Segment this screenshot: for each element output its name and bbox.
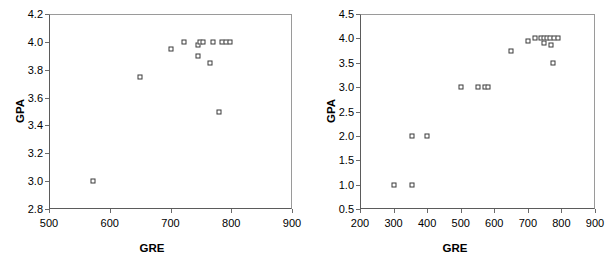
y-tick-label: 3.5 xyxy=(339,57,354,68)
y-tick-label: 4.5 xyxy=(339,9,354,20)
x-tick-label: 600 xyxy=(101,218,119,229)
plot-area-left xyxy=(49,14,292,209)
y-tick-mark xyxy=(45,98,49,99)
x-tick-mark xyxy=(561,209,562,213)
y-tick-label: 3.6 xyxy=(28,92,43,103)
data-point-marker xyxy=(556,36,561,41)
x-axis-title-right: GRE xyxy=(303,242,607,254)
x-tick-label: 400 xyxy=(418,218,436,229)
chart-left-gre-gpa: 2.83.03.23.43.63.84.04.2 500600700800900… xyxy=(0,0,304,259)
data-point-marker xyxy=(195,53,200,58)
chart-right-gre-gpa: 0.51.01.52.02.53.03.54.04.5 200300400500… xyxy=(303,0,607,259)
x-tick-label: 200 xyxy=(351,218,369,229)
data-point-marker xyxy=(410,133,415,138)
x-tick-mark xyxy=(231,209,232,213)
data-point-marker xyxy=(486,85,491,90)
data-point-marker xyxy=(509,48,514,53)
data-point-marker xyxy=(200,39,205,44)
x-tick-label: 800 xyxy=(222,218,240,229)
data-point-marker xyxy=(228,39,233,44)
x-tick-mark xyxy=(360,209,361,213)
y-tick-label: 4.0 xyxy=(339,33,354,44)
x-tick-label: 500 xyxy=(40,218,58,229)
y-tick-mark xyxy=(356,63,360,64)
y-tick-label: 3.4 xyxy=(28,120,43,131)
y-tick-label: 2.5 xyxy=(339,106,354,117)
data-point-marker xyxy=(541,41,546,46)
y-tick-label: 3.2 xyxy=(28,148,43,159)
x-tick-label: 700 xyxy=(519,218,537,229)
y-tick-label: 2.8 xyxy=(28,204,43,215)
data-point-marker xyxy=(475,85,480,90)
x-tick-mark xyxy=(427,209,428,213)
data-point-marker xyxy=(425,133,430,138)
x-tick-mark xyxy=(171,209,172,213)
data-point-marker xyxy=(168,46,173,51)
x-tick-label: 500 xyxy=(452,218,470,229)
y-tick-mark xyxy=(356,160,360,161)
y-tick-mark xyxy=(356,185,360,186)
y-tick-mark xyxy=(45,42,49,43)
y-axis-title-left: GPA xyxy=(14,94,26,128)
x-tick-mark xyxy=(494,209,495,213)
data-point-marker xyxy=(217,109,222,114)
y-tick-mark xyxy=(356,87,360,88)
y-tick-mark xyxy=(45,14,49,15)
y-axis-title-right: GPA xyxy=(325,94,337,128)
data-point-marker xyxy=(551,60,556,65)
y-tick-label: 1.0 xyxy=(339,179,354,190)
x-tick-label: 600 xyxy=(485,218,503,229)
plot-area-right xyxy=(360,14,595,209)
data-point-marker xyxy=(391,182,396,187)
x-tick-mark xyxy=(49,209,50,213)
y-tick-label: 1.5 xyxy=(339,155,354,166)
data-point-marker xyxy=(211,39,216,44)
y-tick-label: 0.5 xyxy=(339,204,354,215)
data-point-marker xyxy=(182,39,187,44)
x-tick-mark xyxy=(461,209,462,213)
y-tick-mark xyxy=(356,38,360,39)
y-tick-label: 2.0 xyxy=(339,130,354,141)
y-tick-mark xyxy=(45,181,49,182)
y-tick-label: 3.8 xyxy=(28,64,43,75)
x-tick-mark xyxy=(528,209,529,213)
x-tick-label: 700 xyxy=(161,218,179,229)
data-point-marker xyxy=(549,42,554,47)
y-tick-mark xyxy=(45,153,49,154)
x-tick-mark xyxy=(595,209,596,213)
x-tick-label: 800 xyxy=(552,218,570,229)
y-tick-label: 3.0 xyxy=(28,176,43,187)
data-point-marker xyxy=(91,179,96,184)
scatter-plot-pair: 2.83.03.23.43.63.84.04.2 500600700800900… xyxy=(0,0,607,259)
x-tick-mark xyxy=(394,209,395,213)
y-tick-mark xyxy=(356,136,360,137)
data-point-marker xyxy=(138,74,143,79)
data-point-marker xyxy=(525,38,530,43)
data-point-marker xyxy=(207,60,212,65)
x-tick-mark xyxy=(110,209,111,213)
y-tick-mark xyxy=(45,70,49,71)
data-point-marker xyxy=(458,85,463,90)
y-tick-label: 4.0 xyxy=(28,36,43,47)
x-tick-label: 300 xyxy=(384,218,402,229)
x-tick-mark xyxy=(292,209,293,213)
x-tick-label: 900 xyxy=(586,218,604,229)
y-tick-label: 4.2 xyxy=(28,9,43,20)
y-tick-label: 3.0 xyxy=(339,82,354,93)
y-tick-mark xyxy=(45,125,49,126)
y-tick-mark xyxy=(356,112,360,113)
x-tick-label: 900 xyxy=(283,218,301,229)
x-axis-title-left: GRE xyxy=(0,242,304,254)
data-point-marker xyxy=(533,36,538,41)
data-point-marker xyxy=(410,182,415,187)
y-tick-mark xyxy=(356,14,360,15)
